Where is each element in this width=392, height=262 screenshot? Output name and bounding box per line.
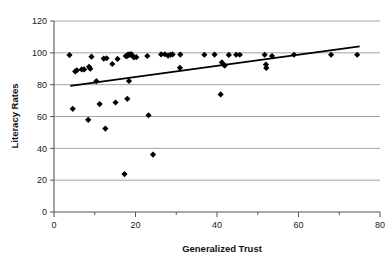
data-point <box>144 53 150 59</box>
x-tick-label-0: 0 <box>51 220 56 230</box>
data-points-group <box>66 51 360 177</box>
data-point <box>102 125 108 131</box>
data-point <box>112 99 118 105</box>
data-point <box>70 106 76 112</box>
y-tick-label-60: 60 <box>37 112 47 122</box>
y-tick-label-40: 40 <box>37 144 47 154</box>
data-point <box>85 117 91 123</box>
x-tick-labels-group: 020406080 <box>51 220 385 230</box>
data-point <box>145 112 151 118</box>
gridlines-group <box>54 21 380 180</box>
data-point <box>97 101 103 107</box>
data-point <box>177 51 183 57</box>
data-point <box>114 56 120 62</box>
y-tick-label-0: 0 <box>42 207 47 217</box>
y-tick-label-120: 120 <box>32 16 47 26</box>
x-tick-label-20: 20 <box>130 220 140 230</box>
data-point <box>211 51 217 57</box>
plot-area: 020406080100120 020406080 Generalized Tr… <box>0 0 392 262</box>
data-point <box>150 151 156 157</box>
y-tick-label-20: 20 <box>37 175 47 185</box>
data-point <box>88 54 94 60</box>
x-axis-title: Generalized Trust <box>182 243 263 254</box>
x-tick-label-80: 80 <box>375 220 385 230</box>
data-point <box>124 96 130 102</box>
data-point <box>121 171 127 177</box>
y-tick-label-80: 80 <box>37 80 47 90</box>
x-tick-label-60: 60 <box>293 220 303 230</box>
y-axis-title: Literacy Rates <box>9 84 20 149</box>
y-tick-label-100: 100 <box>32 48 47 58</box>
x-tick-label-40: 40 <box>212 220 222 230</box>
data-point <box>109 61 115 67</box>
y-tick-labels-group: 020406080100120 <box>32 16 47 217</box>
scatter-chart-figure: 020406080100120 020406080 Generalized Tr… <box>0 0 392 262</box>
data-point <box>218 91 224 97</box>
